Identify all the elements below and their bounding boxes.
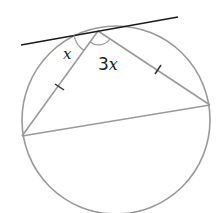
circle-tangent-diagram: x 3x (0, 0, 224, 213)
angle-label-3x-var: x (109, 55, 118, 74)
tangent-line (21, 17, 178, 45)
angle-label-3x-coef: 3 (98, 54, 109, 74)
angle-label-3x: 3x (98, 54, 118, 74)
angle-label-x: x (63, 45, 72, 63)
chord-base (22, 105, 210, 136)
chord-apex-to-left (22, 31, 98, 136)
angle-arc-3x (90, 39, 110, 45)
angle-arc-x (74, 35, 84, 50)
